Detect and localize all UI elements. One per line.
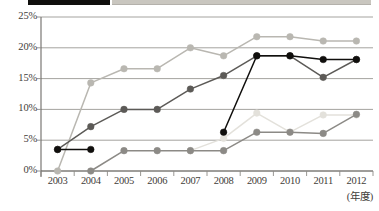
data-point-marker (287, 53, 294, 60)
data-point-marker (253, 129, 260, 136)
data-point-marker (54, 168, 61, 175)
y-tick-label: 0% (3, 165, 37, 176)
data-point-marker (121, 65, 128, 72)
line-chart-figure: 0%5%10%15%20%25% 20032004200520062007200… (0, 0, 379, 211)
data-point-marker (287, 33, 294, 40)
data-point-marker (220, 72, 227, 79)
data-point-marker (253, 110, 260, 117)
data-point-marker (154, 106, 161, 113)
y-tick-label: 15% (3, 73, 37, 84)
data-point-marker (253, 33, 260, 40)
data-point-marker (320, 38, 327, 45)
data-point-marker (88, 80, 95, 87)
y-tick-label: 25% (3, 11, 37, 22)
data-point-marker (121, 147, 128, 154)
y-tick-label: 5% (3, 134, 37, 145)
data-point-marker (220, 53, 227, 60)
data-point-marker (320, 130, 327, 137)
data-series-layer (54, 33, 359, 174)
data-point-marker (320, 56, 327, 63)
data-point-marker (54, 146, 61, 153)
series-line (58, 56, 357, 150)
data-point-marker (154, 65, 161, 72)
data-point-marker (353, 56, 360, 63)
data-point-marker (187, 147, 194, 154)
data-point-marker (253, 53, 260, 60)
data-point-marker (320, 74, 327, 81)
data-point-marker (220, 135, 227, 142)
series-series-light-gray (54, 33, 359, 174)
data-point-marker (187, 86, 194, 93)
series-series-black (54, 53, 359, 153)
y-tick-label: 10% (3, 103, 37, 114)
data-point-marker (187, 45, 194, 52)
data-point-marker (220, 129, 227, 136)
data-point-marker (220, 147, 227, 154)
series-line (224, 56, 357, 132)
data-point-marker (121, 106, 128, 113)
series-line (91, 114, 357, 171)
x-axis-labels: 2003200420052006200720082009201020112012 (0, 176, 379, 194)
data-point-marker (88, 123, 95, 130)
series-series-dark-gray (54, 53, 359, 153)
x-tick-label: 2012 (336, 176, 376, 187)
y-tick-label: 20% (3, 42, 37, 53)
data-point-marker (353, 38, 360, 45)
series-series-medium-gray (88, 111, 360, 174)
data-point-marker (88, 168, 95, 175)
data-point-marker (287, 129, 294, 136)
data-point-marker (88, 146, 95, 153)
data-point-marker (154, 147, 161, 154)
x-axis-unit-label: (年度) (347, 192, 373, 203)
data-point-marker (320, 112, 327, 119)
data-point-marker (353, 111, 360, 118)
